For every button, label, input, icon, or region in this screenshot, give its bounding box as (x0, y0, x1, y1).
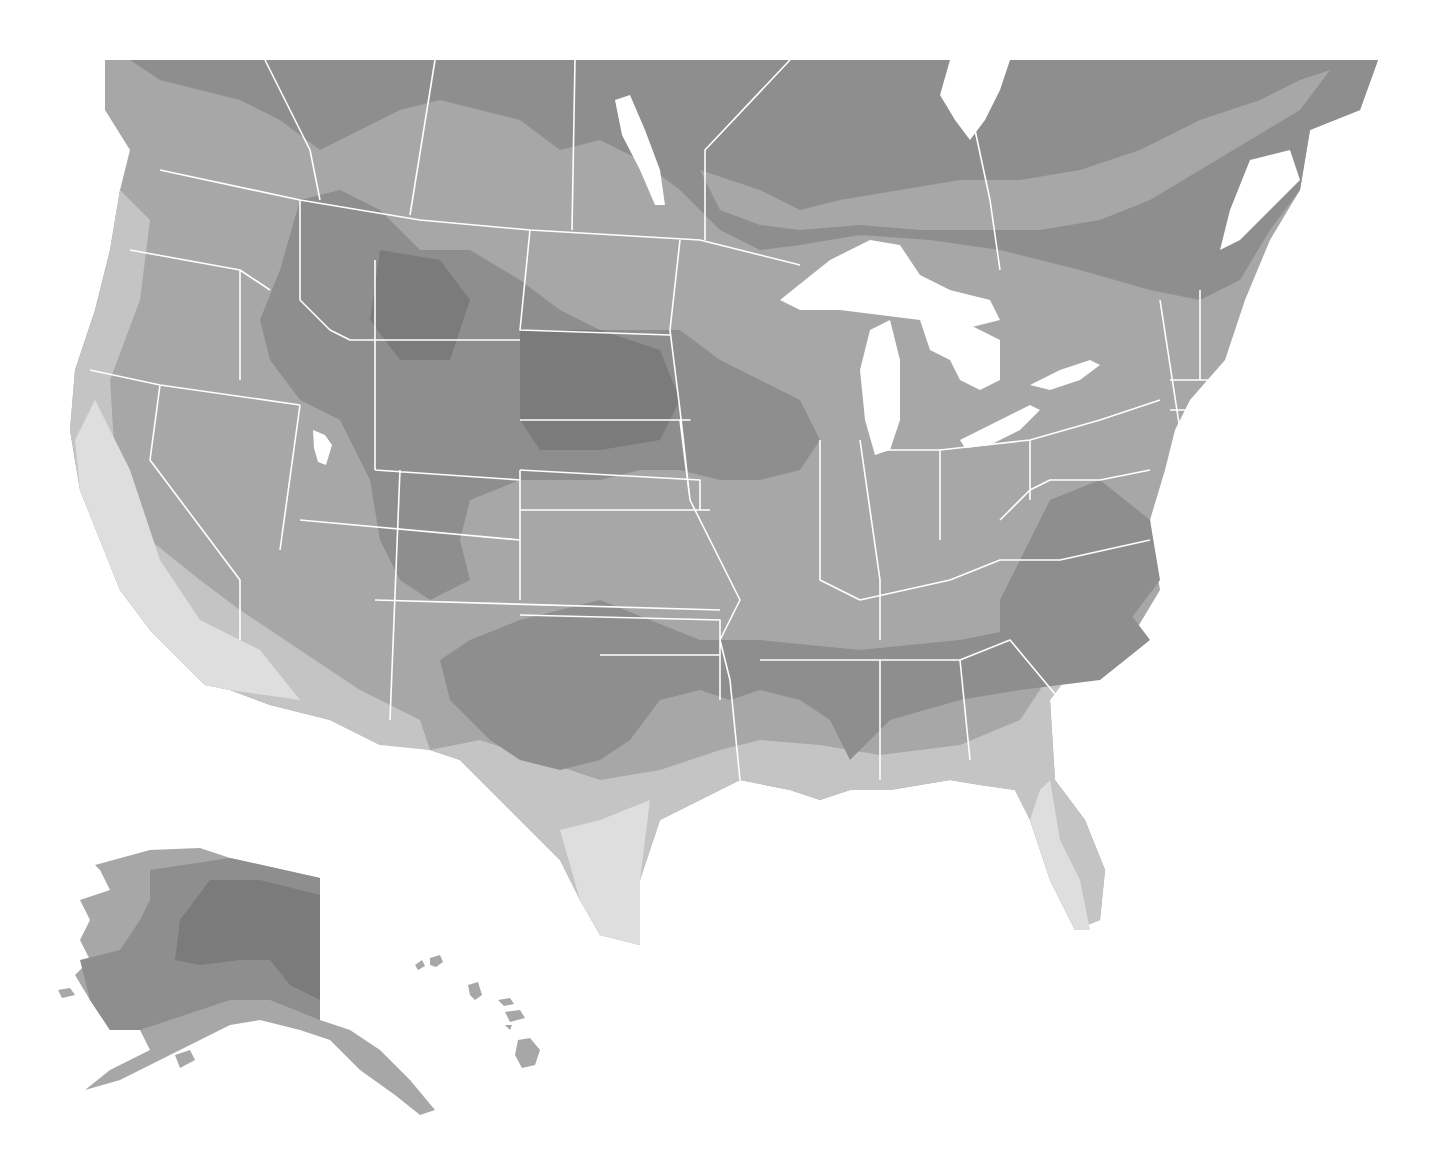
hawaii-inset (415, 955, 540, 1068)
alaska-inset (58, 848, 435, 1115)
hawaii-islands (415, 955, 540, 1068)
zone-map (0, 0, 1442, 1170)
zone-5-south-texas-florida (560, 780, 1090, 945)
mainland (70, 60, 1378, 945)
